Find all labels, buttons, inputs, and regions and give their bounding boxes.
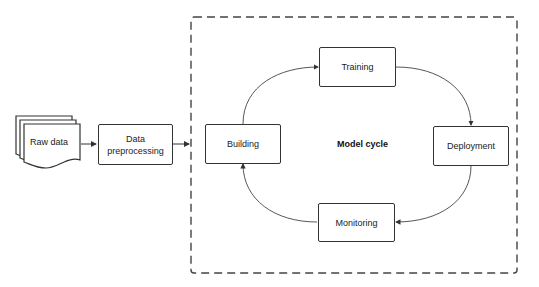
preprocessing-label-line2: preprocessing [107,145,164,157]
training-node: Training [319,47,396,87]
arrow-building-to-training [243,67,318,124]
deployment-node: Deployment [433,126,509,166]
model-cycle-title: Model cycle [337,139,388,149]
monitoring-node: Monitoring [318,203,395,242]
arrow-deployment-to-monitoring [396,166,471,222]
raw-data-label: Raw data [30,137,68,147]
arrow-training-to-deployment [396,67,471,125]
building-label: Building [227,138,259,150]
arrow-monitoring-to-building [243,164,317,222]
deployment-label: Deployment [447,140,495,152]
building-node: Building [205,124,281,164]
training-label: Training [341,61,373,73]
preprocessing-label-line1: Data [126,133,145,145]
data-preprocessing-node: Data preprocessing [98,124,173,165]
monitoring-label: Monitoring [335,217,377,229]
